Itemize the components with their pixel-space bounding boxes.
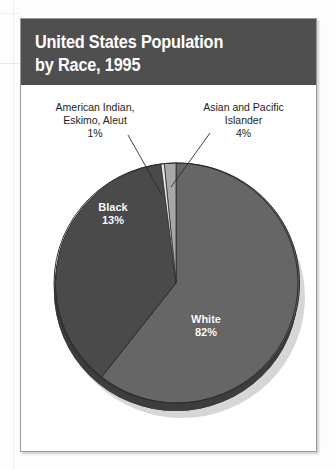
- slice-label-white-name: White: [176, 313, 236, 326]
- callout-american-indian-value: 1%: [35, 127, 155, 140]
- slice-label-black-value: 13%: [83, 214, 143, 227]
- page-title-line-2: by Race, 1995: [35, 54, 140, 76]
- title-banner: United States Population by Race, 1995: [21, 19, 316, 85]
- callout-american-indian-line-2: Eskimo, Aleut: [35, 114, 155, 127]
- page-seam-horizontal-top: [0, 13, 20, 14]
- callout-asian-pacific-islander: Asian and Pacific Islander 4%: [181, 101, 306, 140]
- figure-card: United States Population by Race, 1995: [20, 18, 317, 452]
- page-seam-vertical: [13, 0, 14, 470]
- callout-asian-line-1: Asian and Pacific: [181, 101, 306, 114]
- pie-chart-plot-area: American Indian, Eskimo, Aleut 1% Asian …: [21, 85, 316, 451]
- slice-label-black-name: Black: [83, 201, 143, 214]
- slice-label-white: White 82%: [176, 313, 236, 339]
- slice-label-white-value: 82%: [176, 326, 236, 339]
- callout-american-indian: American Indian, Eskimo, Aleut 1%: [35, 101, 155, 140]
- page-title-line-1: United States Population: [35, 31, 223, 53]
- callout-asian-value: 4%: [181, 127, 306, 140]
- page-seam-horizontal: [0, 63, 20, 64]
- callout-asian-line-2: Islander: [181, 114, 306, 127]
- callout-american-indian-line-1: American Indian,: [35, 101, 155, 114]
- slice-label-black: Black 13%: [83, 201, 143, 227]
